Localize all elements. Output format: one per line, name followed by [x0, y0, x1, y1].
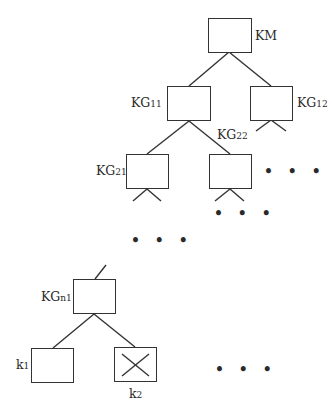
label-kg11: KG11	[131, 97, 162, 110]
label-kg12: KG12	[297, 97, 328, 110]
node-kgn1	[73, 279, 116, 314]
label-text: k	[129, 386, 137, 401]
label-text: KM	[255, 28, 277, 43]
label-subscript: 12	[316, 99, 327, 109]
label-k2: k2	[129, 388, 142, 401]
label-kg22: KG22	[217, 129, 248, 142]
ellipsis-middle: • • •	[131, 233, 193, 247]
ellipsis-below-kg22: • • •	[214, 206, 276, 220]
label-text: KG	[41, 289, 60, 304]
node-kg11	[167, 86, 211, 121]
label-kg21: KG21	[96, 165, 127, 178]
label-text: KG	[131, 95, 150, 110]
label-text: k	[16, 357, 24, 372]
node-kg12	[250, 86, 293, 121]
label-text: KG	[297, 95, 316, 110]
node-km	[208, 18, 252, 53]
label-subscript: 1	[24, 361, 30, 371]
label-km: KM	[255, 30, 277, 43]
node-k1	[31, 348, 74, 383]
label-text: KG	[96, 163, 115, 178]
label-k1: k1	[16, 359, 29, 372]
node-kg22	[209, 154, 252, 189]
node-k2-crossed	[114, 347, 157, 382]
label-kgn1: KGn1	[41, 291, 72, 304]
node-kg21	[126, 154, 169, 189]
label-subscript: 22	[236, 131, 247, 141]
label-subscript: 2	[137, 390, 143, 400]
label-text: KG	[217, 127, 236, 142]
label-subscript: 21	[115, 167, 126, 177]
label-subscript: 11	[150, 99, 161, 109]
ellipsis-right-level2: • • •	[264, 164, 326, 178]
ellipsis-bottom-right: • • •	[215, 362, 277, 376]
label-subscript: n1	[60, 293, 72, 303]
